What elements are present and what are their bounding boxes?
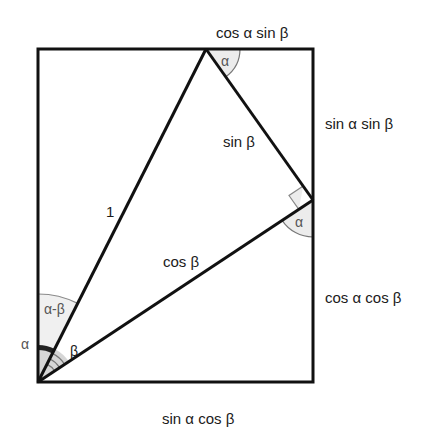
label-angle-alpha-origin: α [21, 336, 29, 352]
segment-sin-beta [206, 49, 313, 200]
label-cos-beta: cos β [163, 253, 200, 270]
label-angle-beta: β [70, 343, 78, 359]
label-bottom-edge: sin α cos β [162, 410, 235, 427]
label-angle-alpha-top: α [221, 53, 229, 69]
label-hypotenuse: 1 [106, 203, 114, 220]
label-right-upper: sin α sin β [325, 115, 394, 132]
trig-diagram: cos α sin β sin α sin β cos α cos β sin … [0, 0, 425, 444]
label-angle-alpha-minus-beta: α-β [44, 301, 65, 317]
label-sin-beta: sin β [223, 133, 255, 150]
right-angle-marker [289, 186, 303, 209]
segment-cos-beta [38, 200, 313, 382]
label-angle-alpha-right: α [295, 214, 303, 230]
label-right-lower: cos α cos β [325, 289, 402, 306]
segment-hypotenuse [38, 49, 206, 382]
outer-rectangle [38, 49, 313, 382]
label-top-edge: cos α sin β [216, 24, 289, 41]
